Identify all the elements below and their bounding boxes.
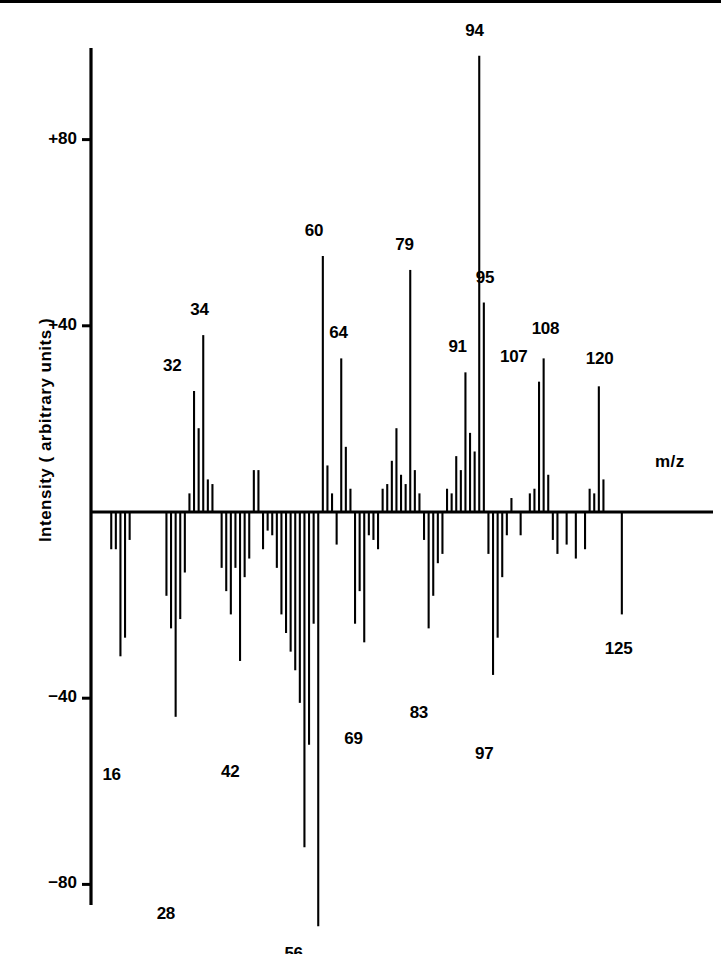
x-axis-title: m/z bbox=[655, 452, 685, 472]
peak-label-56: 56 bbox=[284, 944, 302, 954]
peak-label-91: 91 bbox=[448, 337, 466, 357]
peak-label-94: 94 bbox=[465, 21, 483, 41]
peak-label-120: 120 bbox=[586, 349, 613, 369]
peak-label-60: 60 bbox=[305, 221, 323, 241]
y-tick-label: +40 bbox=[1, 315, 77, 335]
peak-label-28: 28 bbox=[157, 904, 175, 924]
peak-label-42: 42 bbox=[221, 762, 239, 782]
peak-label-32: 32 bbox=[163, 356, 181, 376]
y-tick-label: −40 bbox=[1, 687, 77, 707]
peak-label-34: 34 bbox=[190, 300, 208, 320]
peak-label-16: 16 bbox=[102, 765, 120, 785]
y-tick-label: +80 bbox=[1, 129, 77, 149]
spectrum-plot bbox=[0, 0, 721, 954]
peak-label-69: 69 bbox=[344, 729, 362, 749]
stems-group bbox=[111, 56, 622, 926]
peak-label-125: 125 bbox=[605, 639, 632, 659]
peak-label-97: 97 bbox=[475, 744, 493, 764]
peak-label-83: 83 bbox=[410, 703, 428, 723]
peak-label-107: 107 bbox=[500, 347, 527, 367]
peak-label-64: 64 bbox=[329, 323, 347, 343]
mass-spectrum-figure: Intensity ( arbitrary units ) m/z +80+40… bbox=[0, 0, 721, 954]
peak-label-95: 95 bbox=[476, 268, 494, 288]
peak-label-108: 108 bbox=[532, 319, 559, 339]
y-tick-label: −80 bbox=[1, 873, 77, 893]
peak-label-79: 79 bbox=[395, 235, 413, 255]
